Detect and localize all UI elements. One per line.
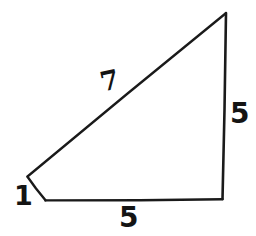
right-side-line — [223, 13, 227, 199]
hypotenuse-line — [28, 14, 226, 177]
right-side-label: 5 — [230, 100, 249, 128]
left-vertex-label: 1 — [14, 182, 33, 209]
triangle-figure: 7 5 5 1 — [0, 0, 256, 236]
bottom-side-label: 5 — [119, 204, 138, 232]
